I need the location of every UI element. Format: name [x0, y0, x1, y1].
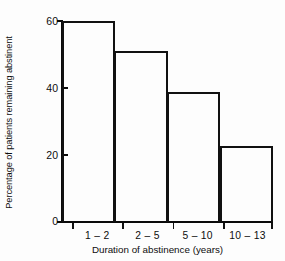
x-tick-label-10-13: 10 – 13 [223, 229, 272, 243]
x-axis-title: Duration of abstinence (years) [45, 243, 270, 256]
x-tick-label-5-10: 5 – 10 [173, 229, 223, 243]
x-tickmark-0 [72, 223, 74, 229]
x-tickmark-1 [122, 223, 124, 229]
bar-5-10 [167, 92, 220, 221]
x-tickmark-4 [271, 223, 273, 229]
x-tickmark-3 [223, 223, 225, 229]
bar-series [0, 0, 285, 261]
x-tickmark-2 [173, 223, 175, 229]
bar-chart: Percentage of patients remaining abstine… [0, 0, 285, 261]
bar-2-5 [114, 51, 167, 222]
x-tick-label-2-5: 2 – 5 [122, 229, 172, 243]
x-tick-label-1-2: 1 – 2 [72, 229, 122, 243]
bar-10-13 [220, 146, 273, 221]
bar-1-2 [62, 21, 115, 222]
